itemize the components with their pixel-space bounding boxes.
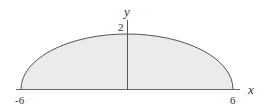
ellipse-chart: y 2 x -6 6 xyxy=(0,0,274,110)
y-axis-label: y xyxy=(122,4,130,19)
x-tick-neg6: -6 xyxy=(15,94,25,106)
y-tick-2: 2 xyxy=(118,21,124,33)
x-tick-6: 6 xyxy=(230,94,236,106)
x-axis-label: x xyxy=(247,82,254,97)
